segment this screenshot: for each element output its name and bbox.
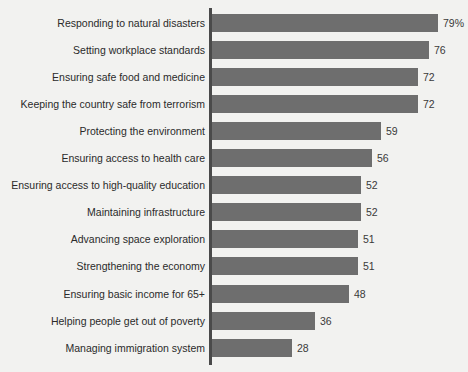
bar — [212, 149, 372, 167]
category-label: Ensuring safe food and medicine — [4, 68, 205, 86]
bar-row: Responding to natural disasters79% — [0, 14, 468, 32]
bar — [212, 176, 361, 194]
bar — [212, 285, 349, 303]
bar-value-label: 28 — [297, 339, 309, 357]
category-label: Advancing space exploration — [4, 230, 205, 248]
category-label: Setting workplace standards — [4, 41, 205, 59]
bar-row: Maintaining infrastructure52 — [0, 203, 468, 221]
bar-value-label: 36 — [320, 312, 332, 330]
bar — [212, 312, 315, 330]
bar-value-label: 51 — [363, 257, 375, 275]
bar-row: Strengthening the economy51 — [0, 257, 468, 275]
bar — [212, 122, 381, 140]
bar-row: Helping people get out of poverty36 — [0, 312, 468, 330]
category-label: Keeping the country safe from terrorism — [4, 95, 205, 113]
bar-row: Ensuring safe food and medicine72 — [0, 68, 468, 86]
bar-value-label: 59 — [386, 122, 398, 140]
bar-row: Keeping the country safe from terrorism7… — [0, 95, 468, 113]
category-label: Helping people get out of poverty — [4, 312, 205, 330]
bar — [212, 230, 358, 248]
category-label: Ensuring access to health care — [4, 149, 205, 167]
bar-value-label: 79% — [443, 14, 464, 32]
bar-value-label: 72 — [423, 68, 435, 86]
bar-value-label: 76 — [434, 41, 446, 59]
bar — [212, 339, 292, 357]
bar — [212, 95, 418, 113]
bar-value-label: 56 — [377, 149, 389, 167]
bar-value-label: 48 — [354, 285, 366, 303]
bar — [212, 41, 429, 59]
category-label: Responding to natural disasters — [4, 14, 205, 32]
bar-row: Protecting the environment59 — [0, 122, 468, 140]
bar-row: Ensuring access to health care56 — [0, 149, 468, 167]
bar-rows-container: Responding to natural disasters79%Settin… — [0, 0, 468, 372]
category-label: Ensuring basic income for 65+ — [4, 285, 205, 303]
category-label: Ensuring access to high-quality educatio… — [4, 176, 205, 194]
bar-chart: Responding to natural disasters79%Settin… — [0, 0, 468, 372]
category-label: Strengthening the economy — [4, 257, 205, 275]
bar — [212, 203, 361, 221]
bar — [212, 68, 418, 86]
bar-row: Ensuring basic income for 65+48 — [0, 285, 468, 303]
bar-value-label: 52 — [366, 203, 378, 221]
bar — [212, 257, 358, 275]
category-label: Managing immigration system — [4, 339, 205, 357]
bar-row: Advancing space exploration51 — [0, 230, 468, 248]
bar-row: Ensuring access to high-quality educatio… — [0, 176, 468, 194]
bar — [212, 14, 438, 32]
bar-value-label: 52 — [366, 176, 378, 194]
bar-value-label: 51 — [363, 230, 375, 248]
category-label: Maintaining infrastructure — [4, 203, 205, 221]
bar-row: Setting workplace standards76 — [0, 41, 468, 59]
category-label: Protecting the environment — [4, 122, 205, 140]
bar-value-label: 72 — [423, 95, 435, 113]
bar-row: Managing immigration system28 — [0, 339, 468, 357]
